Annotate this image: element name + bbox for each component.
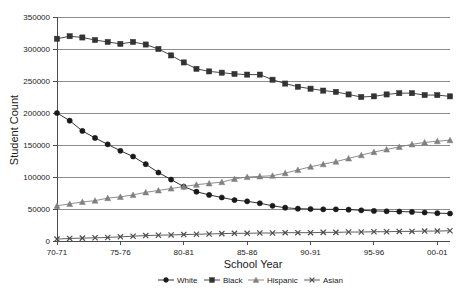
legend-label: Asian (323, 276, 343, 285)
data-point (181, 60, 186, 65)
gridlines (57, 17, 450, 241)
data-point (397, 91, 402, 96)
data-point (435, 92, 440, 97)
legend-label: Black (223, 276, 244, 285)
data-point (371, 94, 376, 99)
data-point (447, 94, 452, 99)
y-tick-label: 100000 (23, 173, 50, 182)
data-point (333, 207, 338, 212)
data-point (283, 81, 288, 86)
legend-item-black[interactable]: Black (204, 276, 244, 285)
data-point (143, 162, 148, 167)
x-tick-label: 75-76 (110, 248, 131, 257)
data-point (245, 199, 250, 204)
data-point (194, 66, 199, 71)
series-asian (54, 228, 452, 242)
x-axis-title: School Year (224, 258, 283, 270)
data-point (321, 88, 326, 93)
data-point (384, 209, 389, 214)
data-point (232, 71, 237, 76)
series-line-asian (57, 231, 450, 239)
data-point (409, 209, 414, 214)
legend-marker-square-icon (210, 278, 215, 283)
series-white (54, 110, 452, 216)
data-point (346, 207, 351, 212)
data-point (67, 34, 72, 39)
legend-label: White (177, 276, 198, 285)
x-tick-label: 80-81 (174, 248, 195, 257)
data-point (422, 92, 427, 97)
data-point (295, 206, 300, 211)
data-point (359, 94, 364, 99)
data-point (105, 39, 110, 44)
data-point (194, 189, 199, 194)
data-point (219, 70, 224, 75)
data-point (422, 210, 427, 215)
series-line-black (57, 36, 450, 97)
data-point (118, 41, 123, 46)
data-point (232, 197, 237, 202)
legend-label: Hispanic (267, 276, 298, 285)
data-point (156, 170, 161, 175)
data-point (270, 203, 275, 208)
data-point (245, 72, 250, 77)
y-tick-label: 50000 (28, 205, 51, 214)
data-point (118, 148, 123, 153)
legend-marker-circle-icon (164, 278, 169, 283)
x-tick-label: 85-86 (237, 248, 258, 257)
data-point (308, 86, 313, 91)
data-point (257, 72, 262, 77)
data-point (80, 128, 85, 133)
data-point (384, 92, 389, 97)
data-point (397, 209, 402, 214)
x-tick-label: 90-91 (300, 248, 321, 257)
y-axis-title: Student Count (8, 95, 20, 165)
x-tick-label: 95-96 (364, 248, 385, 257)
data-point (54, 110, 59, 115)
data-point (219, 195, 224, 200)
data-point (257, 201, 262, 206)
data-point (80, 35, 85, 40)
y-tick-label: 250000 (23, 77, 50, 86)
data-point (270, 77, 275, 82)
data-point (168, 53, 173, 58)
data-point (54, 36, 59, 41)
data-point (435, 211, 440, 216)
y-tick-label: 300000 (23, 45, 50, 54)
x-tick-label: 00-01 (427, 248, 448, 257)
series-line-hispanic (57, 140, 450, 206)
series-black (54, 34, 452, 100)
data-series (54, 34, 453, 242)
y-tick-label: 0 (46, 237, 51, 246)
data-point (130, 154, 135, 159)
series-line-white (57, 113, 450, 213)
data-point (67, 118, 72, 123)
data-point (156, 46, 161, 51)
data-point (143, 42, 148, 47)
data-point (371, 208, 376, 213)
data-point (409, 91, 414, 96)
y-tick-label: 350000 (23, 13, 50, 22)
student-count-line-chart: 0500001000001500002000002500003000003500… (0, 0, 464, 299)
data-point (346, 92, 351, 97)
data-point (321, 207, 326, 212)
y-tick-label: 150000 (23, 141, 50, 150)
data-point (207, 192, 212, 197)
x-tick-label: 70-71 (47, 248, 68, 257)
data-point (447, 211, 452, 216)
legend-item-asian[interactable]: Asian (304, 276, 343, 285)
legend-item-white[interactable]: White (158, 276, 198, 285)
data-point (359, 208, 364, 213)
legend-item-hispanic[interactable]: Hispanic (248, 276, 298, 285)
data-point (295, 84, 300, 89)
data-point (283, 205, 288, 210)
chart-canvas: 0500001000001500002000002500003000003500… (0, 0, 464, 299)
data-point (333, 89, 338, 94)
data-point (105, 142, 110, 147)
data-point (168, 177, 173, 182)
chart-legend: WhiteBlackHispanicAsian (158, 276, 343, 285)
x-axis-tick-labels: 70-7175-7680-8185-8690-9195-9600-01 (47, 248, 448, 257)
y-tick-label: 200000 (23, 109, 50, 118)
data-point (308, 206, 313, 211)
data-point (92, 37, 97, 42)
